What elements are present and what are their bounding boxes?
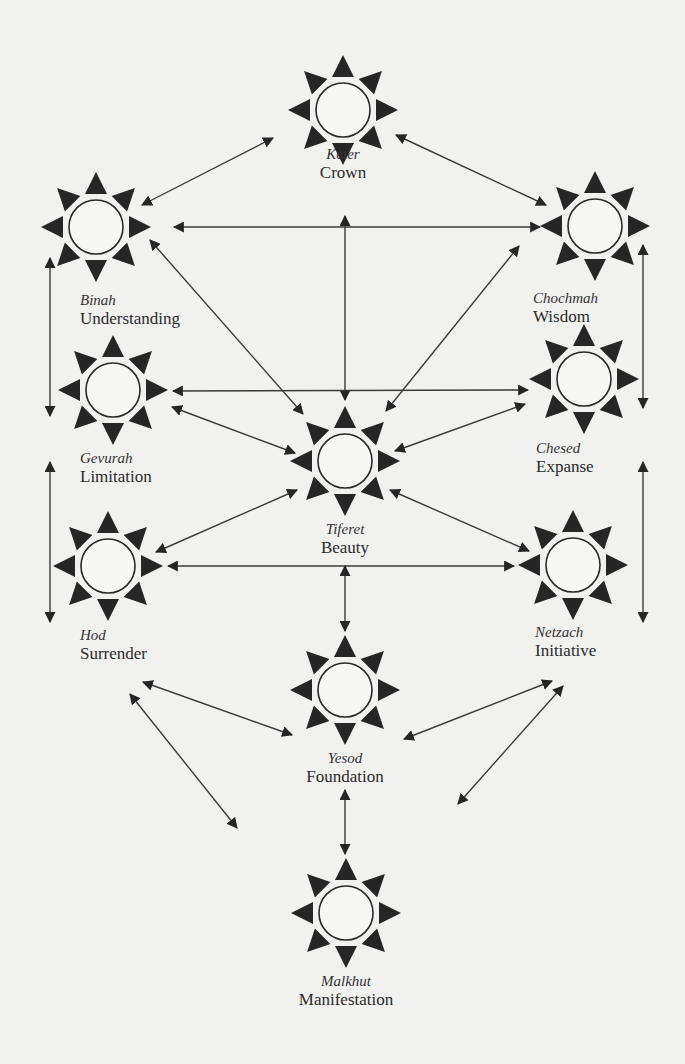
english-name: Understanding	[80, 309, 180, 329]
hebrew-name: Tiferet	[321, 521, 369, 538]
sun-ray-icon	[334, 494, 356, 516]
sefirah-circle	[86, 363, 140, 417]
hebrew-name: Gevurah	[80, 450, 152, 467]
sefirah-chochmah-sun-icon	[540, 171, 650, 281]
path-tiferet-hod-double-arrow	[156, 490, 297, 552]
sun-ray-icon	[102, 335, 124, 357]
sun-ray-icon	[53, 555, 75, 577]
path-gevurah-tiferet-double-arrow	[172, 407, 295, 453]
english-name: Manifestation	[299, 990, 393, 1010]
sun-ray-icon	[379, 902, 401, 924]
english-name: Surrender	[80, 644, 147, 664]
english-name: Initiative	[535, 641, 596, 661]
sefirah-circle	[318, 663, 372, 717]
sefirah-hod-sun-icon	[53, 511, 163, 621]
sun-ray-icon	[290, 679, 312, 701]
sun-ray-icon	[584, 171, 606, 193]
hebrew-name: Binah	[80, 292, 180, 309]
sun-ray-icon	[584, 259, 606, 281]
sun-ray-icon	[97, 599, 119, 621]
hebrew-name: Chesed	[536, 440, 594, 457]
sun-ray-icon	[562, 598, 584, 620]
sun-ray-icon	[562, 510, 584, 532]
sun-ray-icon	[85, 172, 107, 194]
sun-ray-icon	[378, 450, 400, 472]
sun-ray-icon	[376, 99, 398, 121]
sun-ray-icon	[288, 99, 310, 121]
sefirah-chesed-sun-icon	[529, 324, 639, 434]
sefirah-malkhut-label: MalkhutManifestation	[299, 973, 393, 1010]
sefirah-yesod-label: YesodFoundation	[306, 750, 383, 787]
sun-ray-icon	[290, 450, 312, 472]
sefirah-circle	[316, 83, 370, 137]
sefirah-tiferet-sun-icon	[290, 406, 400, 516]
sefirah-circle	[557, 352, 611, 406]
sun-ray-icon	[573, 324, 595, 346]
path-tiferet-netzach-double-arrow	[390, 490, 529, 551]
hebrew-name: Hod	[80, 627, 147, 644]
hebrew-name: Chochmah	[533, 290, 598, 307]
sun-ray-icon	[335, 946, 357, 968]
sefirah-yesod-sun-icon	[290, 635, 400, 745]
sefirah-gevurah-label: GevurahLimitation	[80, 450, 152, 487]
sun-ray-icon	[334, 406, 356, 428]
sun-ray-icon	[102, 423, 124, 445]
sefirah-netzach-label: NetzachInitiative	[535, 624, 596, 661]
english-name: Crown	[320, 163, 366, 183]
hebrew-name: Keter	[320, 146, 366, 163]
sun-ray-icon	[628, 215, 650, 237]
sun-ray-icon	[518, 554, 540, 576]
sefirah-hod-label: HodSurrender	[80, 627, 147, 664]
sefirah-gevurah-sun-icon	[58, 335, 168, 445]
path-netzach-malkhut-double-arrow	[458, 686, 563, 804]
sun-ray-icon	[378, 679, 400, 701]
sefirah-binah-label: BinahUnderstanding	[80, 292, 180, 329]
path-gevurah-chesed-double-arrow	[173, 390, 528, 391]
sefirah-circle	[318, 434, 372, 488]
sefirah-chesed-label: ChesedExpanse	[536, 440, 594, 477]
sun-ray-icon	[85, 260, 107, 282]
path-keter-chochmah-double-arrow	[396, 135, 546, 205]
sun-ray-icon	[529, 368, 551, 390]
english-name: Wisdom	[533, 307, 598, 327]
sefirah-tiferet-label: TiferetBeauty	[321, 521, 369, 558]
path-keter-binah-double-arrow	[142, 138, 273, 205]
sefirah-circle	[69, 200, 123, 254]
path-netzach-yesod-double-arrow	[404, 681, 552, 739]
sefirah-circle	[568, 199, 622, 253]
sefirah-netzach-sun-icon	[518, 510, 628, 620]
sefirah-circle	[319, 886, 373, 940]
path-chochmah-tiferet-double-arrow	[386, 246, 519, 411]
sun-ray-icon	[335, 858, 357, 880]
sun-ray-icon	[141, 555, 163, 577]
sun-ray-icon	[334, 635, 356, 657]
sun-ray-icon	[97, 511, 119, 533]
sun-ray-icon	[540, 215, 562, 237]
sun-ray-icon	[334, 723, 356, 745]
sefirah-malkhut-sun-icon	[291, 858, 401, 968]
english-name: Foundation	[306, 767, 383, 787]
english-name: Limitation	[80, 467, 152, 487]
sun-ray-icon	[617, 368, 639, 390]
sun-ray-icon	[129, 216, 151, 238]
hebrew-name: Malkhut	[299, 973, 393, 990]
sefirah-circle	[546, 538, 600, 592]
sun-ray-icon	[332, 55, 354, 77]
sun-ray-icon	[58, 379, 80, 401]
sun-ray-icon	[573, 412, 595, 434]
sun-ray-icon	[291, 902, 313, 924]
hebrew-name: Yesod	[306, 750, 383, 767]
sefirah-binah-sun-icon	[41, 172, 151, 282]
path-chesed-tiferet-double-arrow	[395, 404, 525, 451]
sun-ray-icon	[146, 379, 168, 401]
english-name: Beauty	[321, 538, 369, 558]
path-hod-yesod-double-arrow	[143, 682, 292, 735]
sefirah-chochmah-label: ChochmahWisdom	[533, 290, 598, 327]
sun-ray-icon	[41, 216, 63, 238]
english-name: Expanse	[536, 457, 594, 477]
sefirah-circle	[81, 539, 135, 593]
hebrew-name: Netzach	[535, 624, 596, 641]
sefirah-keter-label: KeterCrown	[320, 146, 366, 183]
sun-ray-icon	[606, 554, 628, 576]
path-hod-malkhut-double-arrow	[130, 694, 237, 828]
